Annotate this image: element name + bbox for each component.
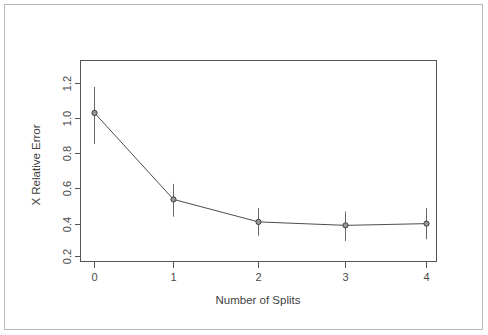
y-tick-label-0_2: 0.2 xyxy=(61,249,73,264)
y-tick-label-1_0: 1.0 xyxy=(61,111,73,126)
y-axis-ticks xyxy=(75,84,81,257)
x-axis-ticks xyxy=(95,262,427,268)
x-tick-label-1: 1 xyxy=(170,271,176,283)
y-axis-tick-labels: 1.2 1.0 0.8 0.6 0.4 0.2 xyxy=(61,76,73,264)
data-point-3 xyxy=(343,223,348,228)
y-tick-label-0_8: 0.8 xyxy=(61,146,73,161)
x-tick-label-4: 4 xyxy=(423,271,429,283)
y-tick-label-1_2: 1.2 xyxy=(61,76,73,91)
chart-figure: 1.2 1.0 0.8 0.6 0.4 0.2 X Relative Error… xyxy=(0,0,488,335)
y-tick-label-0_4: 0.4 xyxy=(61,217,73,232)
data-point-0 xyxy=(92,110,97,115)
x-axis-title: Number of Splits xyxy=(215,294,300,306)
x-tick-label-0: 0 xyxy=(91,271,97,283)
data-series-layer xyxy=(92,87,429,241)
plot-canvas: 1.2 1.0 0.8 0.6 0.4 0.2 X Relative Error… xyxy=(0,0,488,335)
x-axis-tick-labels: 0 1 2 3 4 xyxy=(91,271,429,283)
x-tick-label-3: 3 xyxy=(342,271,348,283)
series-line xyxy=(95,113,427,225)
data-point-4 xyxy=(424,221,429,226)
data-point-2 xyxy=(256,219,261,224)
y-axis-title: X Relative Error xyxy=(30,124,42,205)
y-tick-label-0_6: 0.6 xyxy=(61,181,73,196)
data-point-1 xyxy=(171,197,176,202)
x-tick-label-2: 2 xyxy=(255,271,261,283)
